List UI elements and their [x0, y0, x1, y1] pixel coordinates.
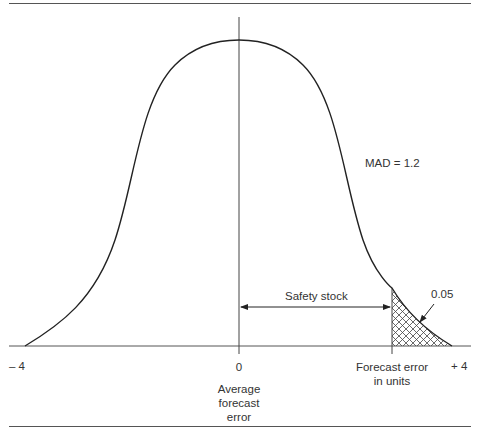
x-min-label: – 4 — [9, 360, 25, 372]
axis-caption: Forecast error in units — [356, 360, 428, 388]
safety-stock-label: Safety stock — [285, 290, 348, 302]
x-max-label: + 4 — [451, 360, 467, 372]
mean-caption-line3: error — [218, 410, 261, 424]
axis-caption-line1: Forecast error — [356, 360, 428, 374]
tail-pointer-arrow — [420, 304, 434, 322]
tail-probability-label: 0.05 — [431, 288, 453, 300]
mad-label: MAD = 1.2 — [365, 157, 420, 169]
axis-caption-line2: in units — [356, 374, 428, 388]
mean-caption-line2: forecast — [218, 396, 261, 410]
x-zero-label: 0 — [236, 360, 242, 374]
mean-caption-line1: Average — [218, 382, 261, 396]
mean-caption: Average forecast error — [218, 382, 261, 424]
